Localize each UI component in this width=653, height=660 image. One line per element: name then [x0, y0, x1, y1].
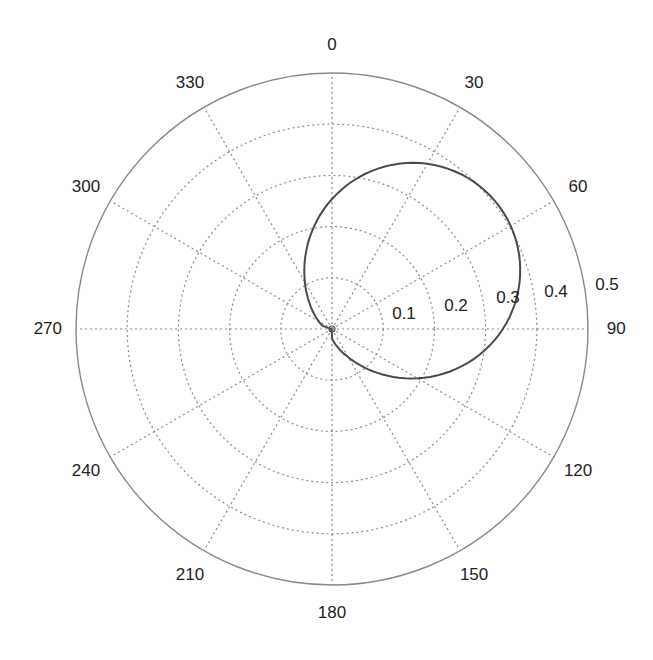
theta-label-210: 210 — [176, 565, 204, 585]
theta-label-180: 180 — [318, 603, 346, 623]
theta-label-150: 150 — [460, 565, 488, 585]
grid-spoke-330 — [204, 107, 332, 329]
polar-plot — [0, 0, 653, 660]
r-label-0.5: 0.5 — [595, 275, 619, 295]
grid-spoke-150 — [332, 329, 460, 551]
grid-spoke-240 — [110, 329, 332, 457]
grid-spoke-210 — [204, 329, 332, 551]
theta-label-90: 90 — [607, 319, 626, 339]
r-label-0.4: 0.4 — [544, 282, 568, 302]
theta-label-120: 120 — [564, 461, 592, 481]
theta-label-240: 240 — [72, 461, 100, 481]
theta-label-270: 270 — [34, 319, 62, 339]
theta-label-60: 60 — [569, 177, 588, 197]
data-curve — [304, 163, 520, 379]
r-label-0.2: 0.2 — [444, 296, 468, 316]
grid-spoke-120 — [332, 329, 554, 457]
theta-label-30: 30 — [465, 73, 484, 93]
r-label-0.3: 0.3 — [496, 288, 520, 308]
theta-label-0: 0 — [327, 35, 336, 55]
theta-label-330: 330 — [176, 73, 204, 93]
theta-label-300: 300 — [72, 177, 100, 197]
grid-spoke-30 — [332, 107, 460, 329]
grid-spoke-300 — [110, 201, 332, 329]
r-label-0.1: 0.1 — [392, 304, 416, 324]
